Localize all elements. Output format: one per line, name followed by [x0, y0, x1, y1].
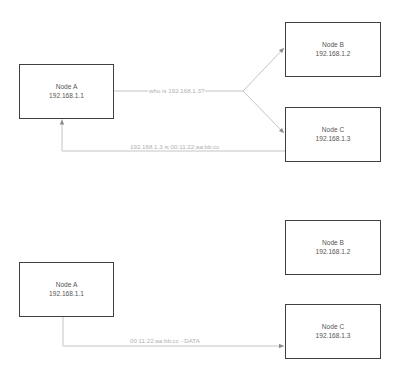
node-title: Node B — [322, 239, 344, 248]
node-title: Node A — [56, 83, 78, 92]
node-c-top[interactable]: Node C 192.168.1.3 — [285, 107, 381, 162]
node-title: Node C — [322, 126, 344, 135]
node-b-bottom[interactable]: Node B 192.168.1.2 — [285, 220, 381, 275]
node-ip: 192.168.1.2 — [316, 248, 351, 257]
node-title: Node A — [56, 281, 78, 290]
reply-label: 192.168.1.3 is 00:11:22:aa:bb:cc — [129, 143, 220, 150]
node-b-top[interactable]: Node B 192.168.1.2 — [285, 22, 381, 77]
node-ip: 192.168.1.3 — [316, 332, 351, 341]
node-a-top[interactable]: Node A 192.168.1.1 — [19, 64, 114, 119]
node-title: Node B — [322, 41, 344, 50]
broadcast-label: who is 192.168.1.3? — [148, 87, 205, 94]
node-title: Node C — [322, 323, 344, 332]
node-a-bottom[interactable]: Node A 192.168.1.1 — [19, 262, 114, 317]
node-ip: 192.168.1.1 — [49, 92, 84, 101]
node-ip: 192.168.1.2 — [316, 50, 351, 59]
node-c-bottom[interactable]: Node C 192.168.1.3 — [285, 304, 381, 359]
node-ip: 192.168.1.1 — [49, 290, 84, 299]
data-label: 00:11:22:aa:bb:cc - DATA — [129, 337, 201, 344]
node-ip: 192.168.1.3 — [316, 135, 351, 144]
